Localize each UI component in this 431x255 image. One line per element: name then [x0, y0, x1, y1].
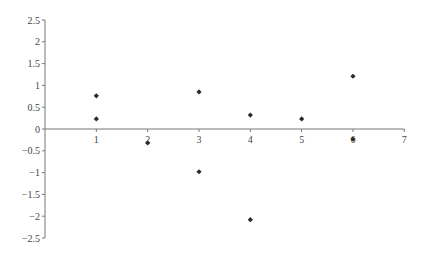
diamond-marker-icon [94, 116, 99, 121]
diamond-marker-icon [196, 169, 201, 174]
x-tick-label: 5 [299, 134, 304, 145]
y-tick-label: −0.5 [22, 145, 40, 156]
x-tick-label: 7 [402, 134, 407, 145]
diamond-marker-icon [94, 93, 99, 98]
x-tick-label: 1 [94, 134, 99, 145]
diamond-marker-icon [299, 116, 304, 121]
x-tick-label: 4 [248, 134, 253, 145]
y-tick-label: 2.5 [28, 15, 41, 26]
diamond-marker-icon [248, 112, 253, 117]
y-tick-label: 0.5 [28, 102, 41, 113]
y-tick-label: 1 [35, 80, 40, 91]
diamond-marker-icon [350, 74, 355, 79]
y-tick-label: −2.5 [22, 233, 40, 244]
scatter-chart: 2.521.510.50−0.5−1−1.5−2−2.5 1234567 [0, 0, 431, 255]
diamond-marker-icon [248, 217, 253, 222]
y-tick-label: −1.5 [22, 189, 40, 200]
y-tick-label: −1 [29, 167, 40, 178]
y-tick-label: 1.5 [28, 58, 41, 69]
y-tick-label: 0 [35, 124, 40, 135]
y-tick-label: −2 [29, 211, 40, 222]
x-tick-label: 3 [196, 134, 201, 145]
diamond-marker-icon [196, 89, 201, 94]
y-axis: 2.521.510.50−0.5−1−1.5−2−2.5 [22, 15, 45, 244]
data-points [94, 74, 356, 223]
y-tick-label: 2 [35, 36, 40, 47]
